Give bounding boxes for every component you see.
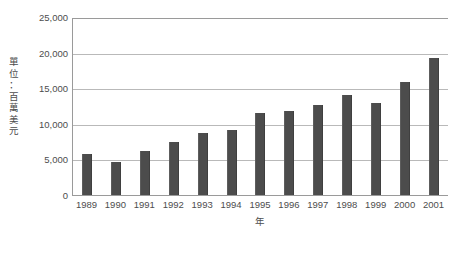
bar-slot	[246, 18, 275, 195]
x-tick-label-1995: 1995	[246, 199, 275, 213]
bar-1990	[111, 162, 121, 195]
bars-container	[73, 18, 448, 195]
y-axis-title: 單 位 ： 百 萬 美 元	[6, 56, 22, 137]
bar-1994	[227, 130, 237, 196]
bar-slot	[419, 18, 448, 195]
x-tick-label-1992: 1992	[159, 199, 188, 213]
plot-area	[72, 18, 448, 196]
x-tick-label-1991: 1991	[130, 199, 159, 213]
bar-2000	[400, 82, 410, 195]
x-axis-tick-labels: 1989199019911992199319941995199619971998…	[72, 199, 448, 213]
bar-slot	[188, 18, 217, 195]
bar-slot	[73, 18, 102, 195]
x-tick-label-1989: 1989	[72, 199, 101, 213]
bar-1992	[169, 142, 179, 195]
y-tick-label-5000: 5,000	[24, 155, 68, 165]
y-tick-label-15000: 15,000	[24, 84, 68, 94]
bar-2001	[429, 58, 439, 195]
x-tick-label-1990: 1990	[101, 199, 130, 213]
bar-slot	[304, 18, 333, 195]
bar-1989	[82, 154, 92, 195]
x-tick-label-1998: 1998	[332, 199, 361, 213]
bar-slot	[275, 18, 304, 195]
bar-1991	[140, 151, 150, 195]
x-tick-label-2000: 2000	[390, 199, 419, 213]
bar-chart-figure: 單 位 ： 百 萬 美 元 5,00010,00015,00020,00025,…	[0, 0, 457, 256]
x-tick-label-1996: 1996	[274, 199, 303, 213]
y-tick-label-20000: 20,000	[24, 49, 68, 59]
bar-1996	[284, 111, 294, 195]
bar-slot	[390, 18, 419, 195]
x-tick-label-1997: 1997	[303, 199, 332, 213]
bar-slot	[333, 18, 362, 195]
x-axis-title: 年	[72, 216, 448, 228]
bar-slot	[131, 18, 160, 195]
bar-1999	[371, 103, 381, 195]
y-tick-label-10000: 10,000	[24, 120, 68, 130]
bar-slot	[361, 18, 390, 195]
bar-1995	[255, 113, 265, 195]
y-axis-zero-label: 0	[24, 191, 68, 201]
y-tick-label-25000: 25,000	[24, 13, 68, 23]
x-tick-label-1999: 1999	[361, 199, 390, 213]
bar-1998	[342, 95, 352, 195]
bar-1993	[198, 133, 208, 195]
bar-slot	[217, 18, 246, 195]
x-tick-label-2001: 2001	[419, 199, 448, 213]
x-tick-label-1994: 1994	[217, 199, 246, 213]
bar-slot	[102, 18, 131, 195]
bar-slot	[160, 18, 189, 195]
y-axis-tick-labels: 5,00010,00015,00020,00025,000	[24, 18, 68, 196]
x-tick-label-1993: 1993	[188, 199, 217, 213]
bar-1997	[313, 105, 323, 195]
